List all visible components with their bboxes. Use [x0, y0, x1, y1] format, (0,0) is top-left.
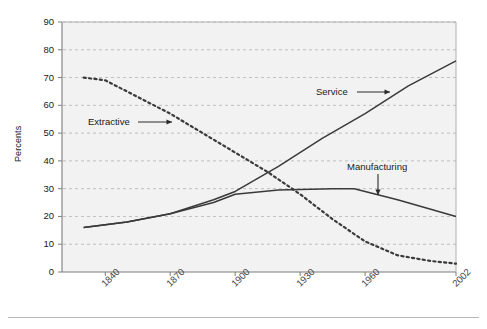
- y-tick-label: 30: [28, 183, 54, 194]
- y-tick-label: 20: [28, 210, 54, 221]
- series-label-service: Service: [316, 86, 348, 97]
- y-tick-label: 90: [28, 16, 54, 27]
- series-label-manufacturing: Manufacturing: [347, 161, 407, 172]
- y-tick-label: 50: [28, 127, 54, 138]
- y-axis-title: Percents: [13, 82, 23, 162]
- y-tick-label: 40: [28, 155, 54, 166]
- y-tick-label: 0: [28, 266, 54, 277]
- y-tick-label: 70: [28, 72, 54, 83]
- series-label-extractive: Extractive: [88, 116, 130, 127]
- plot-background: [62, 22, 456, 272]
- footer-divider: [8, 317, 479, 318]
- y-tick-label: 60: [28, 99, 54, 110]
- y-tick-label: 10: [28, 238, 54, 249]
- chart-figure: Percents 0102030405060708090 18401870190…: [0, 0, 487, 329]
- y-tick-label: 80: [28, 44, 54, 55]
